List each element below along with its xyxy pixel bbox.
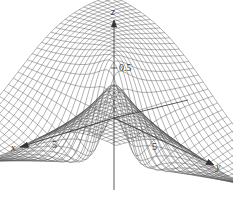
surface-plot: z 0.5 x 5 y 5 bbox=[0, 0, 233, 199]
mesh-line bbox=[111, 136, 233, 187]
x-tick-label: 5 bbox=[52, 139, 57, 150]
surface-mesh bbox=[0, 0, 233, 189]
mesh-line bbox=[112, 0, 233, 183]
x-axis-label: x bbox=[10, 142, 16, 153]
z-axis-label: z bbox=[110, 6, 115, 17]
y-axis-label: y bbox=[215, 161, 221, 172]
mesh-line bbox=[10, 71, 198, 156]
mesh-line bbox=[0, 33, 165, 162]
mesh-line bbox=[0, 127, 125, 162]
y-tick-label: 5 bbox=[152, 141, 157, 152]
z-tick-label: 0.5 bbox=[119, 62, 132, 73]
x-axis-arrow-icon bbox=[20, 143, 29, 148]
mesh-line bbox=[89, 5, 234, 188]
